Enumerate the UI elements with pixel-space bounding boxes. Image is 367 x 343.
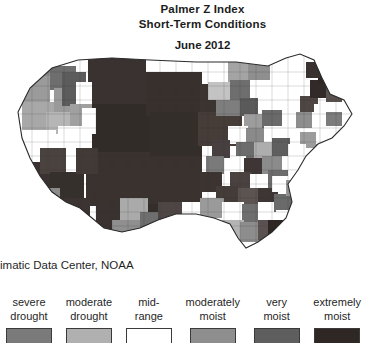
legend-label-line-1: mid-: [138, 296, 159, 310]
legend-swatch-very-moist: [254, 328, 300, 343]
legend-label-line-1: severe: [12, 296, 45, 310]
us-county-choropleth-map: [0, 52, 367, 257]
map-counties-layer: [0, 52, 367, 257]
legend-label-line-1: moderate: [66, 296, 112, 310]
legend-item-severe-drought: severe drought: [6, 296, 52, 343]
legend-label-line-1: extremely: [313, 296, 361, 310]
legend-item-very-moist: very moist: [254, 296, 300, 343]
legend-swatch-severe-drought: [6, 328, 52, 343]
legend-item-mid-range: mid- range: [126, 296, 172, 343]
page-title-line-1: Palmer Z Index: [38, 2, 367, 17]
palmer-z-index-map-figure: Palmer Z Index Short-Term Conditions Jun…: [0, 0, 367, 343]
legend-item-moderate-drought: moderate drought: [66, 296, 112, 343]
legend-label-line-2: range: [135, 310, 163, 324]
legend-label-line-2: moist: [324, 310, 350, 324]
legend-label-line-2: moist: [200, 310, 226, 324]
map-legend: severe drought moderate drought mid- ran…: [0, 296, 367, 343]
legend-label-line-2: drought: [10, 310, 47, 324]
legend-label-line-2: drought: [70, 310, 107, 324]
legend-item-moderately-moist: moderately moist: [186, 296, 240, 343]
page-title-line-2: Short-Term Conditions: [38, 17, 367, 32]
legend-swatch-moderate-drought: [66, 328, 112, 343]
legend-swatch-extremely-moist: [314, 328, 360, 343]
legend-label-line-1: moderately: [186, 296, 240, 310]
figure-title-block: Palmer Z Index Short-Term Conditions Jun…: [0, 2, 367, 53]
legend-label-line-2: moist: [263, 310, 289, 324]
map-svg: [0, 52, 367, 257]
legend-swatch-mid-range: [126, 328, 172, 343]
page-title-date: June 2012: [38, 38, 367, 53]
legend-item-extremely-moist: extremely moist: [313, 296, 361, 343]
legend-swatch-moderately-moist: [190, 328, 236, 343]
legend-label-line-1: very: [266, 296, 287, 310]
source-attribution: imatic Data Center, NOAA: [0, 258, 134, 272]
